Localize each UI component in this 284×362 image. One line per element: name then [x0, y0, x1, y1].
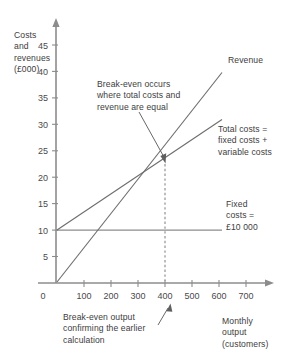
total-costs-series-label: Total costs = fixed costs + variable cos…	[218, 124, 284, 158]
x-axis-tick-labels: 0 100 200 300 400 500 600 700	[40, 291, 253, 301]
x-tick-400: 400	[157, 291, 172, 301]
y-tick-35: 35	[38, 93, 48, 103]
y-tick-5: 5	[43, 252, 48, 262]
x-axis-title: Monthly output (customers)	[222, 316, 284, 350]
breakeven-annotation: Break-even occurs where total costs and …	[97, 79, 193, 113]
x-tick-300: 300	[130, 291, 145, 301]
x-tick-600: 600	[211, 291, 226, 301]
breakeven-output-annotation: Break-even output confirming the earlier…	[63, 312, 167, 346]
y-axis-arrowhead	[52, 18, 59, 27]
x-tick-200: 200	[103, 291, 118, 301]
y-tick-15: 15	[38, 199, 48, 209]
y-tick-25: 25	[38, 146, 48, 156]
x-tick-0: 0	[40, 291, 45, 301]
y-axis-title: Costs and revenues (£000)	[14, 30, 70, 76]
x-axis-arrowhead	[265, 279, 274, 286]
breakeven-note-arrowhead	[160, 153, 166, 163]
break-even-chart: 45 40 35 30 25 20 15 10 5 0 100 200 300 …	[0, 0, 284, 362]
revenue-series-label: Revenue	[228, 55, 263, 66]
x-tick-100: 100	[76, 291, 91, 301]
x-tick-700: 700	[238, 291, 253, 301]
fixed-costs-series-label: Fixed costs = £10 000	[226, 199, 284, 233]
total-costs-line	[57, 120, 222, 231]
y-tick-20: 20	[38, 173, 48, 183]
y-tick-30: 30	[38, 120, 48, 130]
y-tick-10: 10	[38, 226, 48, 236]
breakeven-note-leader	[139, 112, 165, 158]
y-axis-ticks	[52, 45, 58, 257]
x-tick-500: 500	[184, 291, 199, 301]
output-note-arrowhead	[166, 304, 172, 312]
